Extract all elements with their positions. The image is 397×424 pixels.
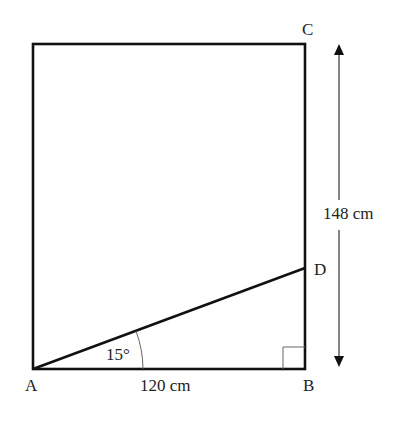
base-length-label: 120 cm xyxy=(140,377,191,394)
angle-label: 15° xyxy=(106,346,130,363)
height-length-label: 148 cm xyxy=(323,205,374,222)
right-angle-marker xyxy=(283,347,305,369)
angle-arc xyxy=(136,331,143,369)
point-label-c: C xyxy=(302,21,313,38)
point-label-b: B xyxy=(303,377,314,394)
line-ad xyxy=(33,268,305,369)
point-label-d: D xyxy=(314,261,326,278)
rectangle-abcd xyxy=(33,44,305,369)
point-label-a: A xyxy=(25,377,37,394)
arrow-up-icon xyxy=(334,44,344,55)
arrow-down-icon xyxy=(334,356,344,367)
